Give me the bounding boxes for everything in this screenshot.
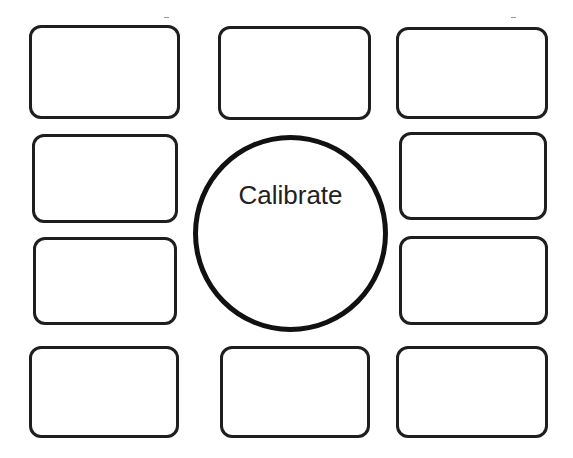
target-box-lower-middle-right[interactable]	[399, 236, 548, 325]
target-box-lower-middle-left[interactable]	[33, 237, 177, 325]
target-box-top-center[interactable]	[218, 26, 371, 120]
calibrate-label: Calibrate	[198, 180, 383, 211]
target-box-bottom-center[interactable]	[220, 346, 370, 438]
target-box-upper-middle-right[interactable]	[399, 132, 547, 220]
target-box-top-right[interactable]	[396, 27, 548, 119]
target-box-upper-middle-left[interactable]	[32, 134, 178, 223]
marker-tick	[511, 17, 516, 18]
calibrate-button[interactable]: Calibrate	[193, 135, 388, 332]
target-box-top-left[interactable]	[29, 25, 180, 119]
marker-tick	[164, 17, 169, 18]
target-box-bottom-right[interactable]	[396, 346, 548, 438]
target-box-bottom-left[interactable]	[29, 346, 179, 438]
